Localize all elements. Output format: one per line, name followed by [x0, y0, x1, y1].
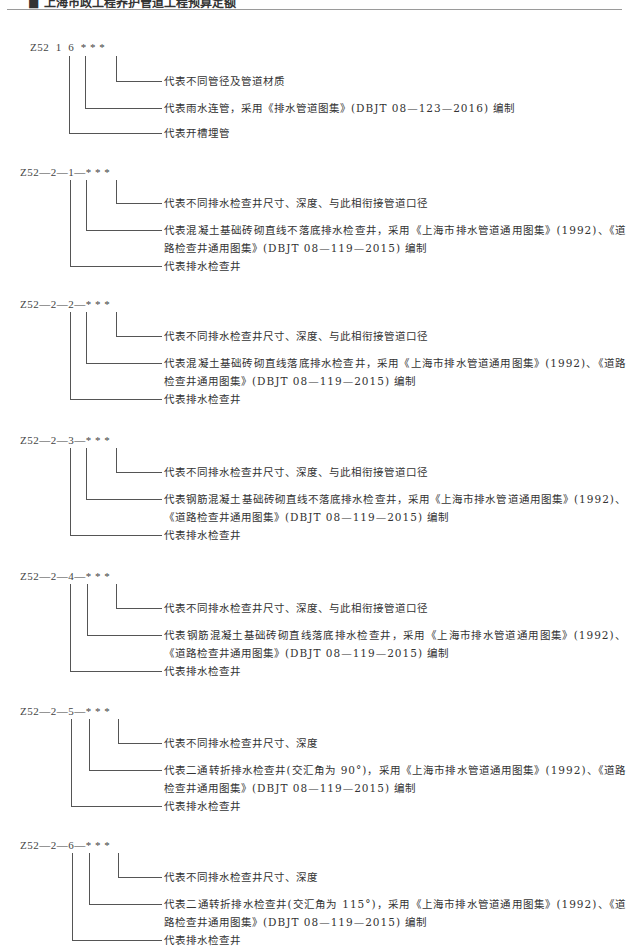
- description-line: 代表混凝土基础砖砌直线不落底排水检查井，采用《上海市排水管道通用图集》(1992…: [164, 221, 626, 257]
- connector: [116, 608, 162, 609]
- description-line: 代表不同管径及管道材质: [164, 72, 626, 90]
- description-line: 代表不同排水检查井尺寸、深度、与此相衔接管道口径: [164, 194, 626, 212]
- connector: [70, 266, 162, 267]
- connector: [118, 853, 119, 878]
- connector: [85, 56, 86, 109]
- connector: [69, 133, 162, 134]
- connector: [69, 56, 70, 134]
- description-line: 代表排水检查井: [164, 257, 626, 275]
- description-line: 代表排水检查井: [164, 662, 626, 680]
- description-line: 代表开槽埋管: [164, 124, 626, 142]
- connector: [86, 312, 87, 364]
- connector: [70, 584, 71, 672]
- code-label: Z52—2—2—* * *: [20, 298, 110, 310]
- code-label: Z52—2—3—* * *: [20, 434, 110, 446]
- connector: [86, 363, 162, 364]
- header-rule: [7, 9, 622, 10]
- connector: [89, 904, 162, 905]
- connector: [72, 853, 73, 941]
- description-line: 代表二通转折排水检查井(交汇角为 115°)，采用《上海市排水管道通用图集》(1…: [164, 895, 626, 931]
- connector: [116, 584, 117, 609]
- connector: [70, 535, 162, 536]
- connector: [89, 719, 90, 771]
- description-line: 代表不同排水检查井尺寸、深度: [164, 734, 626, 752]
- connector: [70, 448, 71, 536]
- connector: [116, 312, 117, 337]
- connector: [116, 203, 162, 204]
- code-label: Z52—2—1—* * *: [20, 166, 110, 178]
- connector: [116, 56, 117, 82]
- description-line: 代表二通转折排水检查井(交汇角为 90°)，采用《上海市排水管道通用图集》(19…: [164, 761, 626, 797]
- connector: [86, 230, 162, 231]
- connector: [89, 770, 162, 771]
- connector: [116, 81, 162, 82]
- description-line: 代表雨水连管，采用《排水管道图集》(DBJT 08—123—2016) 编制: [164, 99, 626, 117]
- description-line: 代表不同排水检查井尺寸、深度、与此相衔接管道口径: [164, 327, 626, 345]
- description-line: 代表排水检查井: [164, 797, 626, 815]
- connector: [72, 940, 162, 941]
- connector: [70, 671, 162, 672]
- connector: [116, 336, 162, 337]
- connector: [70, 312, 71, 400]
- connector: [87, 635, 162, 636]
- connector: [87, 584, 88, 636]
- code-label: Z52 1 6 * * *: [30, 41, 105, 53]
- connector: [116, 472, 162, 473]
- connector: [85, 108, 162, 109]
- connector: [116, 448, 117, 473]
- description-line: 代表不同排水检查井尺寸、深度、与此相衔接管道口径: [164, 463, 626, 481]
- code-label: Z52—2—6—* * *: [20, 839, 110, 851]
- connector: [86, 180, 87, 231]
- description-line: 代表排水检查井: [164, 390, 626, 408]
- description-line: 代表不同排水检查井尺寸、深度: [164, 868, 626, 886]
- code-label: Z52—2—5—* * *: [20, 705, 110, 717]
- connector: [118, 877, 162, 878]
- connector: [70, 180, 71, 267]
- connector: [71, 719, 72, 807]
- connector: [118, 743, 162, 744]
- connector: [71, 806, 162, 807]
- connector: [116, 180, 117, 204]
- description-line: 代表不同排水检查井尺寸、深度、与此相衔接管道口径: [164, 599, 626, 617]
- code-label: Z52—2—4—* * *: [20, 570, 110, 582]
- description-line: 代表混凝土基础砖砌直线落底排水检查井，采用《上海市排水管道通用图集》(1992)…: [164, 354, 626, 390]
- description-line: 代表排水检查井: [164, 526, 626, 544]
- description-line: 代表钢筋混凝土基础砖砌直线落底排水检查井，采用《上海市排水管道通用图集》(199…: [164, 626, 626, 662]
- connector: [70, 399, 162, 400]
- description-line: 代表钢筋混凝土基础砖砌直线不落底排水检查井，采用《上海市排水管道通用图集》(19…: [164, 490, 626, 526]
- connector: [118, 719, 119, 744]
- connector: [86, 499, 162, 500]
- connector: [89, 853, 90, 905]
- connector: [86, 448, 87, 500]
- description-line: 代表排水检查井: [164, 931, 626, 949]
